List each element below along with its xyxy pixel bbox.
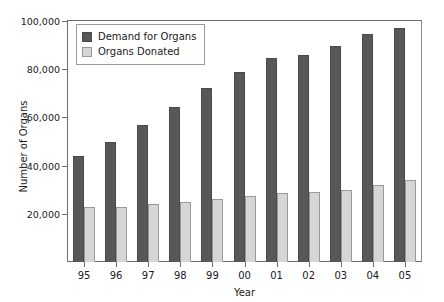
bar-donated <box>116 207 127 262</box>
x-tick-mark <box>84 262 85 267</box>
legend-label: Demand for Organs <box>98 31 196 42</box>
bar-donated <box>84 207 95 262</box>
bar-group <box>394 21 418 262</box>
x-tick-label: 01 <box>262 270 292 281</box>
x-tick-mark <box>245 262 246 267</box>
bar-donated <box>405 180 416 262</box>
bar-demand <box>362 34 373 262</box>
bar-group <box>266 21 290 262</box>
bar-donated <box>341 190 352 262</box>
bar-donated <box>212 199 223 262</box>
bar-donated <box>245 196 256 262</box>
chart-legend: Demand for OrgansOrgans Donated <box>76 24 205 65</box>
x-tick-label: 05 <box>390 270 420 281</box>
x-tick-label: 04 <box>358 270 388 281</box>
legend-item: Demand for Organs <box>82 29 196 44</box>
x-tick-mark <box>309 262 310 267</box>
bar-group <box>330 21 354 262</box>
x-tick-label: 02 <box>294 270 324 281</box>
y-tick-label: 60,000 <box>8 112 60 123</box>
bar-demand <box>137 125 148 262</box>
x-tick-label: 03 <box>326 270 356 281</box>
legend-label: Organs Donated <box>98 46 180 57</box>
x-tick-label: 99 <box>197 270 227 281</box>
x-tick-mark <box>405 262 406 267</box>
bar-group <box>298 21 322 262</box>
x-tick-mark <box>180 262 181 267</box>
bar-demand <box>266 58 277 262</box>
x-axis-title: Year <box>67 287 422 298</box>
bar-donated <box>180 202 191 262</box>
legend-swatch-donated-icon <box>82 47 92 57</box>
y-tick-label: 100,000 <box>8 16 60 27</box>
x-tick-label: 98 <box>165 270 195 281</box>
x-tick-mark <box>341 262 342 267</box>
bar-demand <box>105 142 116 263</box>
bar-demand <box>201 88 212 262</box>
x-tick-label: 95 <box>69 270 99 281</box>
y-tick-label: 20,000 <box>8 208 60 219</box>
legend-swatch-demand-icon <box>82 32 92 42</box>
bar-demand <box>330 46 341 262</box>
bar-group <box>234 21 258 262</box>
bar-donated <box>148 204 159 262</box>
x-tick-mark <box>212 262 213 267</box>
chart-figure: Number of Organs 20,00040,00060,00080,00… <box>0 0 444 302</box>
y-tick-label: 40,000 <box>8 160 60 171</box>
x-tick-label: 97 <box>133 270 163 281</box>
x-tick-mark <box>148 262 149 267</box>
bar-demand <box>394 28 405 262</box>
legend-item: Organs Donated <box>82 44 196 59</box>
x-tick-label: 96 <box>101 270 131 281</box>
x-tick-mark <box>116 262 117 267</box>
bar-donated <box>309 192 320 262</box>
bar-demand <box>298 55 309 262</box>
x-tick-mark <box>373 262 374 267</box>
bar-donated <box>373 185 384 262</box>
y-tick-label: 80,000 <box>8 64 60 75</box>
bar-donated <box>277 193 288 262</box>
bar-demand <box>73 156 84 262</box>
x-tick-label: 00 <box>230 270 260 281</box>
bar-demand <box>169 107 180 262</box>
x-tick-mark <box>277 262 278 267</box>
bar-group <box>362 21 386 262</box>
bar-demand <box>234 72 245 262</box>
